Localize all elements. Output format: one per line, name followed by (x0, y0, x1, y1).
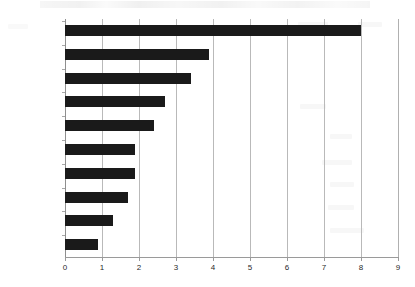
gridline-4 (213, 19, 214, 257)
x-tick (361, 257, 362, 261)
scan-artifact (8, 24, 28, 29)
x-tick-label-9: 9 (383, 263, 413, 272)
category-tick (62, 21, 65, 22)
x-tick (398, 257, 399, 261)
x-tick-label-2: 2 (124, 263, 154, 272)
bar-india (65, 120, 154, 131)
x-tick (139, 257, 140, 261)
category-tick (62, 69, 65, 70)
bar-saudi-arabia (65, 25, 361, 36)
x-tick-label-0: 0 (50, 263, 80, 272)
category-tick (62, 235, 65, 236)
x-tick (250, 257, 251, 261)
x-axis-line (65, 257, 399, 258)
gridline-6 (287, 19, 288, 257)
bar-japan (65, 239, 98, 250)
bar-south-korea (65, 96, 165, 107)
x-tick-label-5: 5 (235, 263, 265, 272)
x-tick-label-7: 7 (309, 263, 339, 272)
x-tick (324, 257, 325, 261)
category-tick (62, 164, 65, 165)
bar-chart-figure: Saudi Arabia Russia US South Korea India… (0, 0, 415, 287)
bar-russia (65, 49, 209, 60)
category-tick (62, 140, 65, 141)
gridline-5 (250, 19, 251, 257)
bar-us (65, 73, 191, 84)
gridline-9 (398, 19, 399, 257)
category-tick (62, 188, 65, 189)
gridline-8 (361, 19, 362, 257)
bar-uk (65, 192, 128, 203)
x-tick (287, 257, 288, 261)
x-tick (176, 257, 177, 261)
bar-germany (65, 215, 113, 226)
x-tick (213, 257, 214, 261)
category-tick (62, 45, 65, 46)
gridline-7 (324, 19, 325, 257)
plot-area: Saudi Arabia Russia US South Korea India… (65, 19, 398, 257)
x-tick-label-6: 6 (272, 263, 302, 272)
bar-france (65, 144, 135, 155)
x-tick-label-4: 4 (198, 263, 228, 272)
x-tick-label-8: 8 (346, 263, 376, 272)
category-tick (62, 92, 65, 93)
cut-off-title-artifact (40, 1, 370, 8)
x-tick (102, 257, 103, 261)
x-tick (65, 257, 66, 261)
x-tick-label-1: 1 (87, 263, 117, 272)
bar-china (65, 168, 135, 179)
category-tick (62, 211, 65, 212)
category-tick (62, 116, 65, 117)
x-tick-label-3: 3 (161, 263, 191, 272)
